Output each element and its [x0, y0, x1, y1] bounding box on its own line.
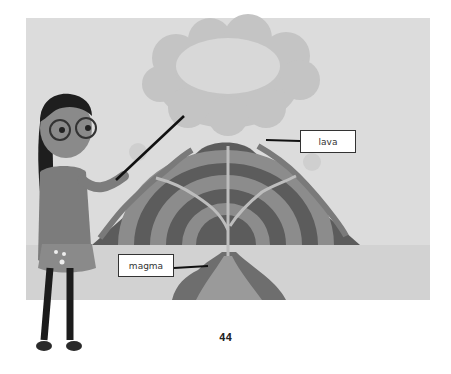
page-number: 44 — [0, 331, 451, 344]
magma-label: magma — [118, 254, 174, 277]
lava-label: lava — [300, 130, 356, 153]
volcano-scene — [0, 0, 451, 374]
lava-pointer-line — [266, 140, 300, 141]
steam-puff-right — [303, 153, 321, 171]
ash-cloud-highlight — [176, 38, 280, 94]
